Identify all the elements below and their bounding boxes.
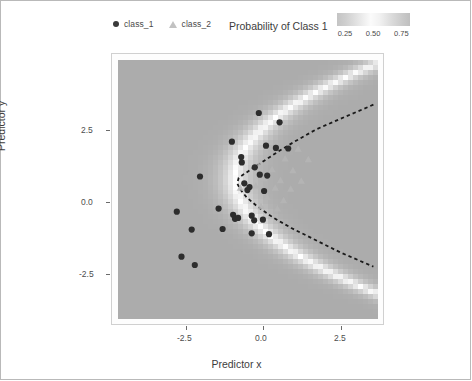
x-tick-label-2: 2.5 bbox=[334, 333, 346, 343]
colorbar-tick-0: 0.25 bbox=[338, 29, 353, 38]
colorbar-title: Probability of Class 1 bbox=[229, 20, 328, 32]
circle-marker-icon bbox=[113, 21, 119, 27]
triangle-marker-icon bbox=[169, 21, 177, 28]
y-tick-label-1: 0.0 bbox=[81, 197, 93, 207]
colorbar-ticks: 0.25 0.50 0.75 bbox=[337, 29, 410, 38]
x-tick-mark-0 bbox=[186, 326, 187, 330]
legend-label-class-2: class_2 bbox=[182, 19, 212, 29]
colorbar-gradient bbox=[337, 13, 410, 26]
x-tick-mark-1 bbox=[263, 326, 264, 330]
y-tick-mark-0 bbox=[106, 130, 110, 131]
figure-frame: class_1 class_2 Probability of Class 1 0… bbox=[0, 0, 471, 380]
colorbar-tick-2: 0.75 bbox=[394, 29, 409, 38]
y-tick-mark-2 bbox=[106, 274, 110, 275]
colorbar-tick-1: 0.50 bbox=[366, 29, 381, 38]
colorbar-body: 0.25 0.50 0.75 bbox=[337, 13, 410, 38]
x-tick-label-1: 0.0 bbox=[255, 333, 267, 343]
legend-item-class-1: class_1 bbox=[113, 19, 154, 29]
scatter-plot-canvas bbox=[118, 60, 378, 319]
x-axis-label: Predictor x bbox=[1, 358, 472, 370]
legend-label-class-1: class_1 bbox=[124, 19, 154, 29]
x-tick-mark-2 bbox=[341, 326, 342, 330]
legend: class_1 class_2 bbox=[113, 15, 211, 33]
y-tick-mark-1 bbox=[106, 202, 110, 203]
y-tick-label-0: 2.5 bbox=[81, 125, 93, 135]
plot-panel bbox=[111, 53, 384, 325]
colorbar: Probability of Class 1 0.25 0.50 0.75 bbox=[229, 13, 410, 38]
legend-item-class-2: class_2 bbox=[169, 19, 212, 29]
probability-heatmap bbox=[118, 60, 378, 319]
y-axis-label: Predictor y bbox=[0, 101, 7, 151]
y-tick-label-2: -2.5 bbox=[79, 269, 94, 279]
x-tick-label-0: -2.5 bbox=[177, 333, 192, 343]
